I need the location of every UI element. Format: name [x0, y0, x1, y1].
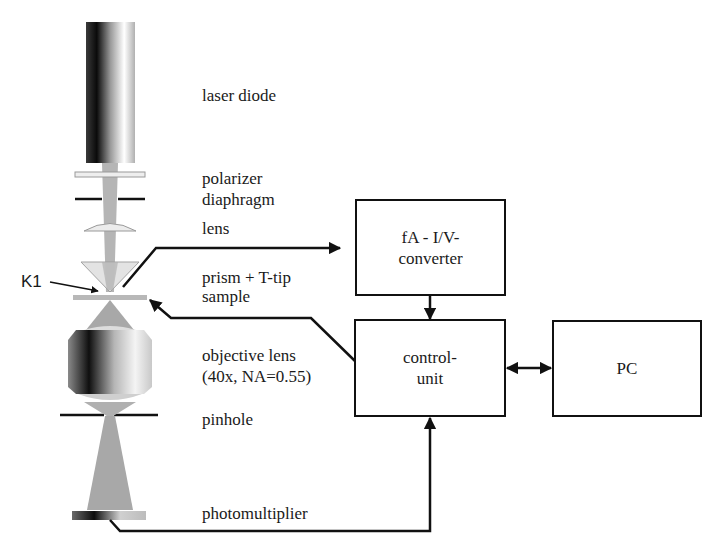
label-diaphragm: diaphragm [202, 190, 275, 210]
converter-block: fA - I/V- converter [355, 199, 506, 296]
label-k1: K1 [21, 272, 42, 292]
converter-label-line2: converter [398, 248, 462, 269]
label-objective-lens: objective lens [202, 346, 296, 366]
label-sample: sample [202, 287, 250, 307]
setup-diagram: laser diode polarizer diaphragm lens pri… [0, 0, 725, 554]
label-objective-spec: (40x, NA=0.55) [202, 367, 311, 387]
polarizer-icon [75, 172, 145, 177]
objective-lens-icon [68, 326, 152, 400]
photomultiplier-icon [72, 511, 146, 520]
collection-cone [86, 300, 134, 330]
pc-block: PC [552, 320, 702, 417]
lens-icon [84, 224, 136, 232]
label-lens: lens [202, 219, 229, 239]
label-laser-diode: laser diode [202, 86, 276, 106]
detection-cone [87, 416, 133, 510]
label-prism-t-tip: prism + T-tip [202, 268, 291, 288]
converter-label-line1: fA - I/V- [398, 227, 462, 248]
label-polarizer: polarizer [202, 169, 262, 189]
label-photomultiplier: photomultiplier [202, 504, 308, 524]
control-unit-label-line2: unit [403, 368, 457, 389]
label-pinhole: pinhole [202, 410, 253, 430]
k1-pointer-arrow [50, 282, 98, 291]
control-unit-label-line1: control- [403, 347, 457, 368]
sample-icon [73, 295, 147, 300]
laser-diode-icon [86, 22, 135, 163]
control-unit-block: control- unit [354, 319, 506, 417]
pc-label: PC [617, 358, 638, 379]
